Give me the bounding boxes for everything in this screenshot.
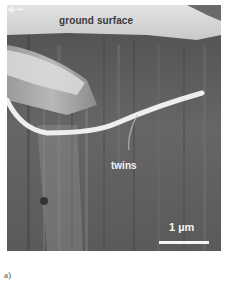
tem-micrograph: ground surface twins 1 µm — [7, 5, 221, 251]
scale-bar — [159, 241, 209, 244]
ground-surface-label: ground surface — [59, 15, 133, 26]
scale-bar-label: 1 µm — [169, 221, 194, 233]
arrow-left-icon — [7, 5, 23, 13]
micrograph-image — [7, 5, 221, 251]
panel-label: a) — [4, 270, 11, 280]
twins-label: twins — [111, 160, 137, 171]
